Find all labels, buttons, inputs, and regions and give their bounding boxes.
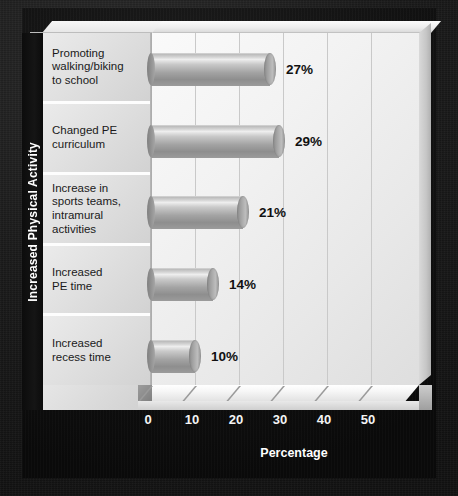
bar-chart: Promoting walking/biking to school Chang… <box>0 0 458 496</box>
category-label-0: Promoting walking/biking to school <box>42 47 128 88</box>
bar-left-cap-3 <box>147 268 155 300</box>
x-axis-title: Percentage <box>0 446 458 460</box>
category-cell-1: Changed PE curriculum <box>42 104 150 175</box>
axis-floor-front <box>138 401 419 410</box>
value-label-2: 21% <box>259 205 286 220</box>
x-tick-label-0: 0 <box>133 412 163 427</box>
bar-left-cap-1 <box>147 125 155 157</box>
bar-body-0 <box>151 53 270 86</box>
bar-body-1 <box>151 125 279 158</box>
value-label-0: 27% <box>286 62 313 77</box>
category-label-3: Increased PE time <box>42 266 107 293</box>
x-tick-label-50: 50 <box>353 412 383 427</box>
bar-4 <box>151 340 195 372</box>
category-cell-3: Increased PE time <box>42 246 150 316</box>
plot-right-wall <box>419 23 431 385</box>
x-tick-label-40: 40 <box>309 412 339 427</box>
bar-end-cap-4 <box>189 340 201 372</box>
bar-3 <box>151 268 213 300</box>
bar-left-cap-0 <box>147 53 155 85</box>
category-cell-4: Increased recess time <box>42 316 150 385</box>
category-label-2: Increase in sports teams, intramural act… <box>42 182 125 236</box>
value-label-1: 29% <box>295 134 322 149</box>
bar-body-3 <box>151 268 213 301</box>
bar-left-cap-2 <box>147 196 155 228</box>
bar-left-cap-4 <box>147 340 155 372</box>
value-label-3: 14% <box>229 277 256 292</box>
bar-end-cap-2 <box>237 196 249 228</box>
bar-end-cap-1 <box>273 125 285 157</box>
bar-end-cap-0 <box>264 53 276 85</box>
bar-0 <box>151 53 270 85</box>
bar-1 <box>151 125 279 157</box>
category-label-1: Changed PE curriculum <box>42 124 121 151</box>
x-tick-label-10: 10 <box>177 412 207 427</box>
bar-2 <box>151 196 243 228</box>
x-tick-label-30: 30 <box>265 412 295 427</box>
bar-body-2 <box>151 196 243 229</box>
gridline-40 <box>327 33 328 385</box>
category-panel-footer <box>42 385 152 410</box>
category-cell-2: Increase in sports teams, intramural act… <box>42 175 150 246</box>
category-cell-0: Promoting walking/biking to school <box>42 33 150 104</box>
x-tick-label-20: 20 <box>221 412 251 427</box>
bar-end-cap-3 <box>207 268 219 300</box>
category-label-4: Increased recess time <box>42 337 115 364</box>
axis-floor-right-corner <box>419 385 432 410</box>
y-axis-title-text: Increased Physical Activity <box>26 142 40 302</box>
value-label-4: 10% <box>211 349 238 364</box>
gridline-50 <box>371 33 372 385</box>
y-axis-title: Increased Physical Activity <box>22 33 43 410</box>
